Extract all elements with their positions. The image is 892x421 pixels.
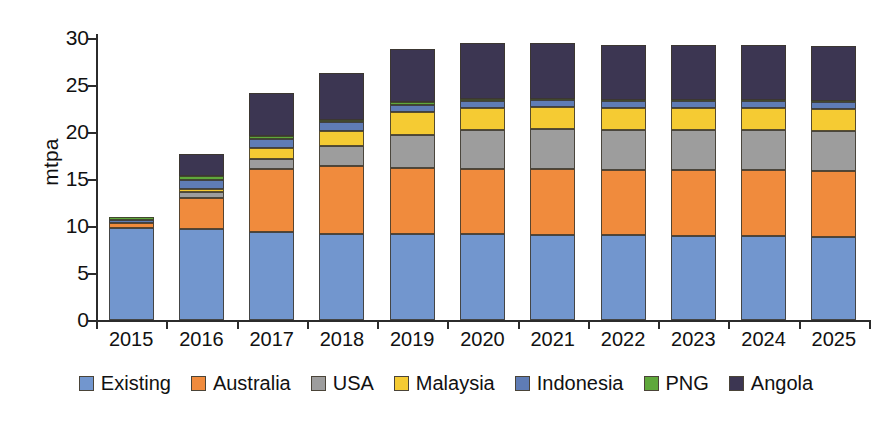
bar-segment-usa[interactable] (601, 130, 646, 169)
bar-segment-usa[interactable] (390, 135, 435, 168)
bar-segment-australia[interactable] (249, 169, 294, 232)
legend-item-australia[interactable]: Australia (191, 372, 291, 394)
bar-segment-malaysia[interactable] (671, 108, 716, 131)
bar-segment-australia[interactable] (179, 198, 224, 229)
bar-segment-existing[interactable] (460, 234, 505, 320)
bar-segment-usa[interactable] (811, 131, 856, 170)
bar-segment-indonesia[interactable] (249, 139, 294, 148)
bar-segment-indonesia[interactable] (601, 101, 646, 108)
y-tick-mark (88, 132, 96, 134)
bar-segment-existing[interactable] (109, 228, 154, 320)
bar-segment-malaysia[interactable] (460, 108, 505, 131)
bar-segment-angola[interactable] (390, 49, 435, 102)
bar-segment-angola[interactable] (460, 43, 505, 99)
bar-segment-indonesia[interactable] (741, 101, 786, 108)
bar-segment-angola[interactable] (811, 46, 856, 101)
bar-segment-usa[interactable] (179, 192, 224, 198)
bar-segment-angola[interactable] (530, 43, 575, 99)
legend-item-existing[interactable]: Existing (79, 372, 171, 394)
stacked-bar[interactable] (390, 49, 435, 320)
legend-label: Malaysia (416, 372, 495, 394)
bar-segment-png[interactable] (460, 99, 505, 101)
legend-item-malaysia[interactable]: Malaysia (394, 372, 495, 394)
bar-segment-usa[interactable] (249, 159, 294, 168)
bar-segment-malaysia[interactable] (741, 108, 786, 131)
bar-segment-angola[interactable] (671, 45, 716, 100)
bar-segment-png[interactable] (319, 120, 364, 122)
x-tick-mark (869, 321, 871, 329)
legend-swatch-icon (191, 376, 206, 391)
stacked-bar[interactable] (179, 154, 224, 320)
stacked-bar[interactable] (319, 73, 364, 320)
stacked-bar[interactable] (811, 46, 856, 320)
bar-segment-existing[interactable] (249, 232, 294, 320)
stacked-bar[interactable] (109, 217, 154, 320)
legend-item-png[interactable]: PNG (644, 372, 709, 394)
bar-segment-existing[interactable] (530, 235, 575, 320)
bar-segment-usa[interactable] (741, 130, 786, 169)
bar-segment-usa[interactable] (319, 146, 364, 166)
plot-area: 051015202530 201520162017201820192020202… (96, 38, 869, 320)
bar-segment-existing[interactable] (601, 235, 646, 320)
bar-segment-malaysia[interactable] (249, 148, 294, 159)
bar-segment-existing[interactable] (179, 229, 224, 320)
stacked-bar[interactable] (671, 45, 716, 320)
bar-segment-malaysia[interactable] (179, 189, 224, 192)
stacked-bar[interactable] (601, 45, 646, 320)
bar-segment-png[interactable] (179, 176, 224, 180)
x-tick-label: 2020 (447, 328, 517, 350)
bar-segment-existing[interactable] (811, 237, 856, 320)
bar-segment-australia[interactable] (741, 170, 786, 237)
bar-segment-australia[interactable] (530, 169, 575, 236)
bar-segment-indonesia[interactable] (179, 180, 224, 189)
bar-segment-existing[interactable] (319, 234, 364, 320)
bar-segment-angola[interactable] (249, 93, 294, 136)
bar-segment-malaysia[interactable] (319, 131, 364, 146)
stacked-bar[interactable] (530, 43, 575, 320)
bar-segment-png[interactable] (249, 136, 294, 139)
legend-item-angola[interactable]: Angola (729, 372, 813, 394)
bar-segment-indonesia[interactable] (530, 100, 575, 107)
bar-segment-australia[interactable] (671, 170, 716, 237)
bar-segment-angola[interactable] (319, 73, 364, 120)
legend-item-indonesia[interactable]: Indonesia (515, 372, 624, 394)
bar-segment-angola[interactable] (601, 45, 646, 100)
stacked-bar[interactable] (741, 45, 786, 320)
legend-item-usa[interactable]: USA (311, 372, 374, 394)
bar-segment-usa[interactable] (530, 129, 575, 168)
y-tick-mark (88, 85, 96, 87)
bar-segment-australia[interactable] (811, 171, 856, 238)
bar-segment-indonesia[interactable] (390, 105, 435, 113)
chart-legend: ExistingAustraliaUSAMalaysiaIndonesiaPNG… (0, 372, 892, 394)
bar-segment-indonesia[interactable] (811, 102, 856, 109)
bar-segment-usa[interactable] (460, 130, 505, 169)
bar-segment-malaysia[interactable] (601, 108, 646, 131)
bar-segment-indonesia[interactable] (460, 101, 505, 108)
y-tick-label: 25 (66, 74, 89, 95)
legend-label: PNG (666, 372, 709, 394)
bar-segment-malaysia[interactable] (811, 109, 856, 132)
legend-label: Existing (101, 372, 171, 394)
bar-segment-malaysia[interactable] (390, 112, 435, 135)
bar-segment-angola[interactable] (741, 45, 786, 100)
bar-segment-australia[interactable] (390, 168, 435, 234)
x-tick-label: 2024 (728, 328, 798, 350)
bar-segment-indonesia[interactable] (319, 122, 364, 131)
bar-segment-png[interactable] (109, 217, 154, 221)
y-tick-label: 10 (66, 215, 89, 236)
bar-segment-indonesia[interactable] (671, 101, 716, 108)
bar-segment-png[interactable] (390, 102, 435, 105)
bar-segment-indonesia[interactable] (109, 220, 154, 223)
bar-segment-existing[interactable] (671, 236, 716, 320)
bar-segment-existing[interactable] (390, 234, 435, 320)
bar-segment-australia[interactable] (319, 166, 364, 234)
bar-segment-angola[interactable] (179, 154, 224, 177)
stacked-bar[interactable] (460, 43, 505, 320)
bar-segment-malaysia[interactable] (530, 107, 575, 130)
stacked-bar[interactable] (249, 93, 294, 320)
bar-segment-australia[interactable] (601, 170, 646, 236)
bar-segment-australia[interactable] (460, 169, 505, 235)
bar-segment-existing[interactable] (741, 236, 786, 320)
bar-segment-australia[interactable] (109, 223, 154, 228)
bar-segment-usa[interactable] (671, 130, 716, 169)
